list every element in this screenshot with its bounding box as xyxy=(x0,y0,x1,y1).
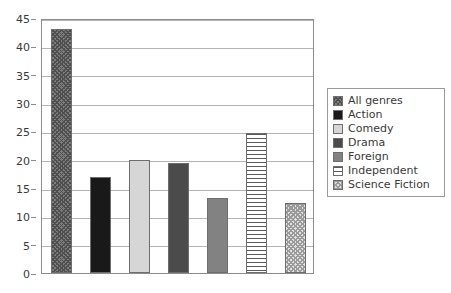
y-tick-label: 10 xyxy=(16,212,30,223)
y-tick-label: 0 xyxy=(23,269,30,280)
legend-swatch-icon xyxy=(333,96,343,106)
legend-item-foreign[interactable]: Foreign xyxy=(333,150,439,163)
legend-item-label: Action xyxy=(348,109,382,120)
legend-swatch-icon xyxy=(333,166,343,176)
y-tick-label: 25 xyxy=(16,127,30,138)
y-tick-label: 20 xyxy=(16,155,30,166)
chart-legend: All genresActionComedyDramaForeignIndepe… xyxy=(327,88,445,197)
bar-chart-figure: 051015202530354045 All genresActionComed… xyxy=(0,0,451,293)
plot-area xyxy=(41,19,314,274)
gridline xyxy=(42,161,313,162)
legend-item-label: Comedy xyxy=(348,123,393,134)
legend-item-action[interactable]: Action xyxy=(333,108,439,121)
gridline xyxy=(42,48,313,49)
gridline xyxy=(42,76,313,77)
legend-swatch-icon xyxy=(333,152,343,162)
legend-item-all-genres[interactable]: All genres xyxy=(333,94,439,107)
legend-item-label: Drama xyxy=(348,137,385,148)
y-tick-mark xyxy=(31,132,36,133)
y-tick-label: 30 xyxy=(16,99,30,110)
bar-comedy xyxy=(129,160,150,273)
legend-swatch-icon xyxy=(333,124,343,134)
legend-item-independent[interactable]: Independent xyxy=(333,164,439,177)
legend-item-label: Science Fiction xyxy=(348,179,430,190)
y-tick-label: 40 xyxy=(16,42,30,53)
bar-action xyxy=(90,177,111,273)
gridline xyxy=(42,133,313,134)
y-tick-mark xyxy=(31,189,36,190)
y-tick-label: 15 xyxy=(16,184,30,195)
y-axis: 051015202530354045 xyxy=(0,19,36,274)
y-tick-label: 5 xyxy=(23,240,30,251)
y-tick-mark xyxy=(31,217,36,218)
bar-independent xyxy=(246,133,267,273)
legend-swatch-icon xyxy=(333,138,343,148)
bar-all-genres xyxy=(51,29,72,273)
legend-item-science-fiction[interactable]: Science Fiction xyxy=(333,178,439,191)
gridline xyxy=(42,105,313,106)
bar-foreign xyxy=(207,198,228,273)
gridline xyxy=(42,20,313,21)
legend-swatch-icon xyxy=(333,110,343,120)
bar-drama xyxy=(168,163,189,273)
y-tick-mark xyxy=(31,19,36,20)
y-tick-mark xyxy=(31,47,36,48)
y-tick-label: 35 xyxy=(16,70,30,81)
legend-item-label: Foreign xyxy=(348,151,389,162)
y-tick-mark xyxy=(31,160,36,161)
y-tick-mark xyxy=(31,104,36,105)
bar-science-fiction xyxy=(285,203,306,273)
legend-item-drama[interactable]: Drama xyxy=(333,136,439,149)
legend-item-label: All genres xyxy=(348,95,403,106)
y-tick-mark xyxy=(31,75,36,76)
legend-swatch-icon xyxy=(333,180,343,190)
legend-item-comedy[interactable]: Comedy xyxy=(333,122,439,135)
y-tick-mark xyxy=(31,274,36,275)
y-tick-label: 45 xyxy=(16,14,30,25)
y-tick-mark xyxy=(31,245,36,246)
legend-item-label: Independent xyxy=(348,165,418,176)
